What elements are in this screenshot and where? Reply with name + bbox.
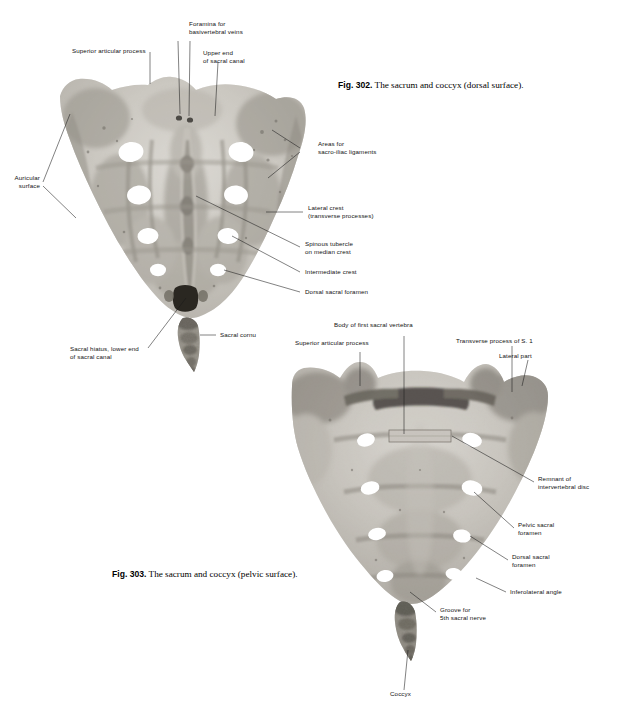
caption-figure-303: Fig. 303. The sacrum and coccyx (pelvic …	[112, 569, 298, 579]
label-superior-articular-process-303: Superior articular process	[295, 339, 369, 347]
label-coccyx: Coccyx	[390, 690, 411, 698]
label-body-of-first-sacral-vertebra: Body of first sacral vertebra	[334, 321, 413, 329]
figure-303-illustration	[0, 0, 629, 704]
label-dorsal-sacral-foramen-303: Dorsal sacralforamen	[512, 553, 550, 568]
label-inferolateral-angle: Inferolateral angle	[510, 588, 562, 596]
sacrum-pelvic-body	[280, 355, 560, 615]
label-groove-for-5th-sacral-nerve: Groove for5th sacral nerve	[440, 606, 486, 621]
anatomical-plate: Superior articular process Foramina forb…	[0, 0, 629, 704]
label-pelvic-sacral-foramen: Pelvic sacralforamen	[518, 521, 554, 536]
label-lateral-part: Lateral part	[499, 352, 532, 360]
label-transverse-process-of-s1: Transverse process of S. 1	[456, 337, 533, 345]
coccyx-pelvic	[388, 596, 428, 666]
label-remnant-of-intervertebral-disc: Remnant ofintervertebral disc	[538, 475, 589, 490]
